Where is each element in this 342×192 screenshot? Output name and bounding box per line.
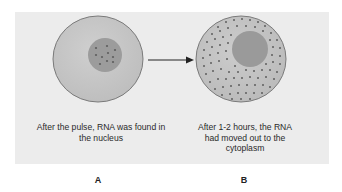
rna-pulse-chase-diagram: [0, 0, 342, 192]
cell-a: [53, 16, 143, 102]
caption-a: After the pulse, RNA was found in the nu…: [36, 122, 166, 143]
arrow-right-icon: [148, 57, 194, 64]
label-b: B: [234, 175, 254, 185]
cell-b-nucleus: [232, 31, 268, 67]
caption-b: After 1-2 hours, the RNA had moved out t…: [190, 122, 300, 154]
cell-b: [196, 16, 286, 102]
cell-a-nucleus: [88, 38, 122, 72]
label-a: A: [88, 175, 108, 185]
